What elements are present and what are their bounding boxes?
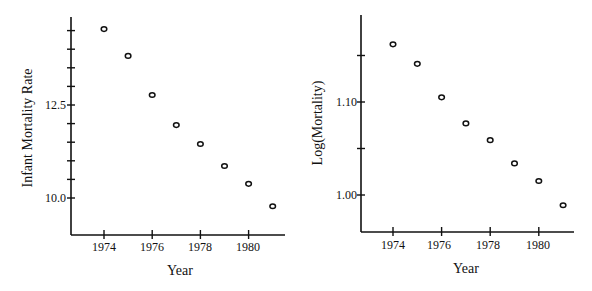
data-point: [125, 54, 131, 59]
y-tick-label-12-5: 12.5: [45, 99, 66, 111]
x-tick-label-1976: 1976: [427, 239, 451, 251]
data-point: [270, 204, 276, 209]
data-point: [512, 161, 518, 166]
data-point: [198, 142, 204, 147]
data-point: [222, 164, 228, 169]
infant-mortality-chart: Infant Mortality Rate 12.5 10.0 1974 197…: [0, 0, 296, 291]
y-tick-label-10-0: 10.0: [45, 192, 66, 204]
data-point: [536, 179, 542, 184]
data-points: [390, 42, 566, 207]
y-tick-label-1-00: 1.00: [336, 189, 357, 201]
data-point: [174, 123, 180, 128]
data-point: [439, 95, 445, 100]
x-axis-title: Year: [453, 261, 479, 277]
data-points: [101, 27, 275, 209]
data-point: [487, 138, 493, 143]
x-tick-label-1976: 1976: [140, 241, 164, 253]
data-point: [560, 203, 566, 208]
x-axis-title: Year: [167, 263, 193, 279]
x-tick-label-1978: 1978: [476, 239, 500, 251]
x-tick-label-1980: 1980: [526, 239, 550, 251]
x-tick-label-1974: 1974: [92, 241, 116, 253]
y-axis-title: Log(Mortality): [310, 81, 326, 166]
log-mortality-chart: Log(Mortality) 1.10 1.00 1974 1976 1978 …: [296, 0, 592, 291]
data-point: [246, 182, 252, 187]
data-point: [149, 93, 155, 98]
y-tick-label-1-10: 1.10: [336, 96, 357, 108]
x-tick-label-1978: 1978: [188, 241, 212, 253]
data-point: [463, 121, 469, 126]
data-point: [415, 62, 421, 67]
y-axis-title: Infant Mortality Rate: [20, 69, 36, 188]
data-point: [101, 27, 107, 32]
data-point: [390, 42, 396, 47]
x-tick-label-1974: 1974: [381, 239, 405, 251]
x-tick-label-1980: 1980: [236, 241, 260, 253]
